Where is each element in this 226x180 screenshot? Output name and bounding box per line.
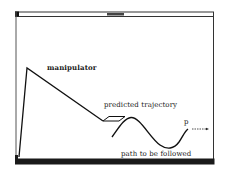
window-title-block (107, 13, 124, 16)
manipulator-label: manipulator (47, 64, 97, 71)
arrow-head-icon (206, 128, 209, 130)
window-bottom-border (15, 159, 215, 165)
window-corner (15, 155, 18, 160)
diagram-canvas: manipulator predicted trajectory path to… (0, 0, 226, 180)
predicted-trajectory-shape (103, 117, 125, 122)
point-p-label: p (184, 119, 189, 126)
window-frame (15, 12, 215, 165)
path-to-be-followed-curve (112, 117, 188, 148)
diagram-svg (0, 0, 226, 180)
manipulator-arm (19, 68, 103, 157)
predicted-trajectory-label: predicted trajectory (104, 102, 177, 109)
path-label: path to be followed (121, 151, 191, 158)
